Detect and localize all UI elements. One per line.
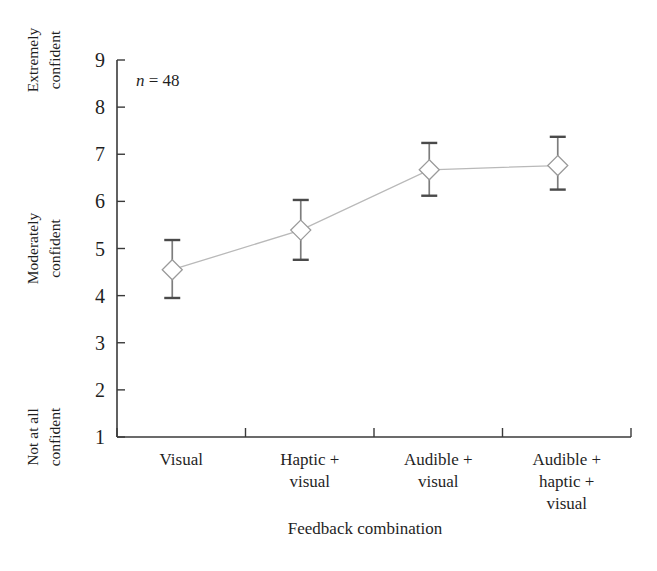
y-anchor-label-line: confident bbox=[46, 30, 63, 89]
sample-size-value: = 48 bbox=[145, 71, 180, 90]
x-category-label: haptic + bbox=[539, 472, 594, 491]
x-category-label: visual bbox=[289, 472, 330, 491]
x-category-label: Audible + bbox=[532, 450, 601, 469]
y-anchor-label: Extremelyconfident bbox=[24, 27, 63, 92]
x-category-label: visual bbox=[418, 472, 459, 491]
y-anchor-label-line: confident bbox=[46, 219, 63, 278]
y-tick-label: 2 bbox=[95, 379, 105, 401]
y-tick-label: 1 bbox=[95, 426, 105, 448]
y-tick-label: 4 bbox=[95, 285, 105, 307]
data-point-marker[interactable] bbox=[291, 220, 311, 240]
y-tick-label: 8 bbox=[95, 96, 105, 118]
y-tick-label: 7 bbox=[95, 143, 105, 165]
data-point-marker[interactable] bbox=[419, 160, 439, 180]
data-point-marker[interactable] bbox=[162, 260, 182, 280]
x-category-label: Haptic + bbox=[280, 450, 339, 469]
confidence-line-chart: 123456789ExtremelyconfidentModeratelycon… bbox=[0, 0, 657, 571]
y-tick-label: 3 bbox=[95, 332, 105, 354]
y-anchor-label-line: confident bbox=[46, 407, 63, 466]
data-point-marker[interactable] bbox=[548, 156, 568, 176]
y-anchor-label-line: Extremely bbox=[24, 27, 41, 92]
x-category-label: Audible + bbox=[404, 450, 473, 469]
y-tick-label: 6 bbox=[95, 190, 105, 212]
x-category-label: Visual bbox=[160, 450, 204, 469]
x-category-label: visual bbox=[546, 494, 587, 513]
y-anchor-label-line: Moderately bbox=[24, 213, 41, 285]
chart-canvas: 123456789ExtremelyconfidentModeratelycon… bbox=[0, 0, 657, 571]
x-axis-title: Feedback combination bbox=[288, 519, 443, 538]
y-anchor-label: Not at allconfident bbox=[24, 407, 63, 466]
sample-size-symbol: n bbox=[136, 71, 145, 90]
y-anchor-label-line: Not at all bbox=[24, 408, 41, 466]
series-line bbox=[172, 166, 558, 270]
y-tick-label: 5 bbox=[95, 238, 105, 260]
sample-size-annotation: n = 48 bbox=[136, 71, 180, 90]
y-anchor-label: Moderatelyconfident bbox=[24, 213, 63, 285]
y-tick-label: 9 bbox=[95, 49, 105, 71]
